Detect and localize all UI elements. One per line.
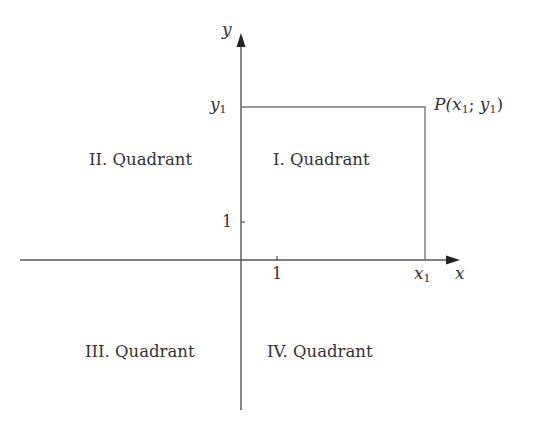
point-x-var: x bbox=[452, 94, 462, 114]
x1-var: x bbox=[414, 263, 424, 283]
point-separator: ; bbox=[469, 94, 480, 114]
y-axis-label: y bbox=[222, 21, 232, 38]
x-tick-label: 1 bbox=[272, 266, 282, 282]
point-label: P(x1; y1) bbox=[434, 96, 503, 115]
x-axis-label: x bbox=[455, 265, 465, 282]
quadrant-4-label: IV. Quadrant bbox=[267, 344, 373, 361]
quadrant-1-label: I. Quadrant bbox=[273, 152, 370, 169]
coordinate-diagram: y x 1 1 y1 x1 P(x1; y1) I. Quadrant II. … bbox=[0, 0, 539, 425]
point-projection-lines bbox=[241, 107, 425, 260]
x1-axis-marker: x1 bbox=[414, 265, 431, 284]
quadrant-3-label: III. Quadrant bbox=[85, 344, 195, 361]
point-suffix: ) bbox=[496, 94, 503, 114]
point-x-sub: 1 bbox=[462, 103, 469, 116]
x1-sub: 1 bbox=[424, 272, 431, 285]
y1-var: y bbox=[210, 94, 220, 114]
point-y-var: y bbox=[480, 94, 490, 114]
y1-sub: 1 bbox=[220, 103, 227, 116]
quadrant-2-label: II. Quadrant bbox=[89, 152, 192, 169]
y1-axis-marker: y1 bbox=[210, 96, 227, 115]
y-axis-arrow-icon bbox=[237, 33, 246, 47]
y-tick-label: 1 bbox=[222, 214, 232, 230]
point-prefix: P( bbox=[434, 94, 452, 114]
axes-graphic bbox=[0, 0, 539, 425]
